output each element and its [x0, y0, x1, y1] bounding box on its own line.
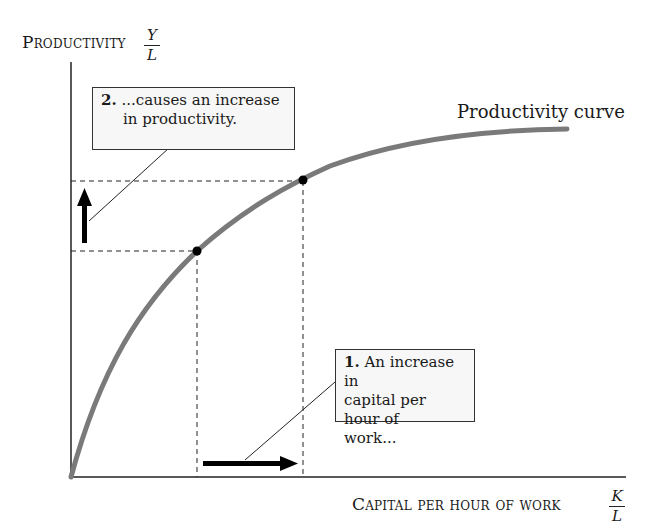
up-arrow-icon: [77, 188, 92, 243]
callout-two: 2. ...causes an increase in productivity…: [92, 87, 295, 150]
x-denominator: L: [612, 508, 622, 525]
right-arrow-icon: [203, 456, 298, 471]
callout-one-leader: [245, 382, 335, 460]
callout-one-line2: capital per hour of: [344, 391, 466, 429]
productivity-diagram: [0, 0, 662, 532]
callout-one-line3: work...: [344, 429, 466, 448]
callout-text: ...causes an increase: [121, 91, 279, 109]
callout-number: 2.: [101, 91, 117, 109]
callout-two-line1: 2. ...causes an increase: [101, 91, 286, 110]
callout-number: 1.: [344, 353, 360, 371]
x-numerator: K: [611, 488, 622, 505]
increased-point: [299, 176, 308, 185]
y-denominator: L: [147, 47, 157, 64]
callout-two-leader: [89, 148, 169, 221]
x-axis-fraction: K L: [609, 488, 625, 525]
guide-lines: [71, 181, 303, 477]
initial-point: [193, 247, 202, 256]
y-axis-label: Productivity: [22, 32, 126, 52]
x-axis-label: Capital per hour of work: [352, 494, 561, 514]
y-axis-fraction: Y L: [144, 27, 160, 64]
callout-text: An increase in: [344, 353, 454, 390]
callout-two-line2: in productivity.: [101, 110, 286, 129]
callout-one-line1: 1. An increase in: [344, 353, 466, 391]
curve-label: Productivity curve: [457, 101, 625, 122]
y-numerator: Y: [147, 27, 157, 44]
callout-one: 1. An increase in capital per hour of wo…: [335, 349, 475, 422]
